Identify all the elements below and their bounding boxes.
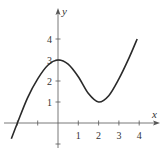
tick-marks (17, 39, 139, 144)
y-tick-label: 4 (47, 34, 52, 45)
axes (4, 8, 160, 148)
x-tick-label: 4 (137, 130, 142, 141)
y-tick-label: 2 (47, 76, 52, 87)
tick-labels: 12341234 (47, 34, 142, 142)
x-tick-label: 3 (116, 130, 121, 141)
x-tick-label: 1 (76, 130, 81, 141)
y-tick-label: 1 (47, 97, 52, 108)
x-axis-label: x (151, 108, 157, 120)
function-curve (11, 39, 137, 139)
y-axis-label: y (61, 5, 67, 17)
function-graph: 12341234 x y (0, 0, 165, 152)
x-tick-label: 2 (96, 130, 101, 141)
